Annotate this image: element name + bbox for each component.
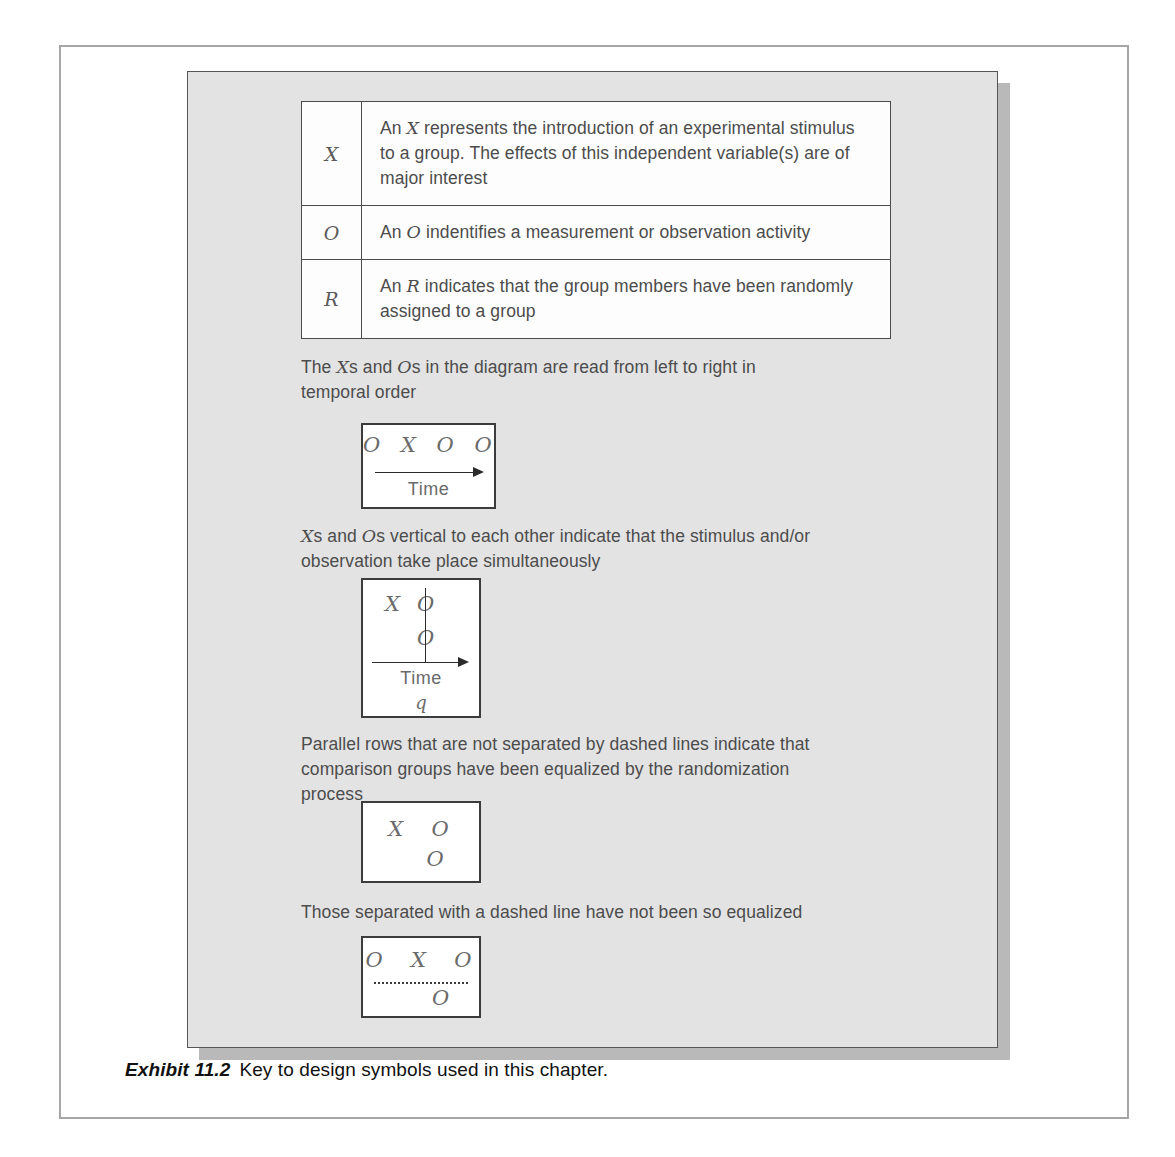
exhibit-caption: Exhibit 11.2Key to design symbols used i… xyxy=(125,1059,608,1081)
time-arrow-head-icon xyxy=(473,467,484,477)
exhibit-frame: X An X represents the introduction of an… xyxy=(59,45,1129,1119)
diagram2-time-label: Time xyxy=(363,668,479,689)
note1-lead: The xyxy=(301,357,336,377)
symbol-description-o: An O indentifies a measurement or observ… xyxy=(362,206,891,260)
diagram-box-equalized: X O O xyxy=(361,801,481,883)
time-arrow-line xyxy=(375,472,475,473)
desc-rest-x: represents the introduction of an experi… xyxy=(380,118,855,188)
inline-symbol-o: O xyxy=(407,222,421,242)
desc-lead-r: An xyxy=(380,276,407,296)
diagram4-row2: O xyxy=(363,986,479,1010)
symbol-cell-x: X xyxy=(302,102,362,206)
figure-panel: X An X represents the introduction of an… xyxy=(187,71,998,1048)
time-arrow-head-icon xyxy=(458,657,469,667)
note1-mid: s and xyxy=(349,357,397,377)
desc-lead-o: An xyxy=(380,222,407,242)
note2-rest: s vertical to each other indicate that t… xyxy=(301,526,810,571)
inline-symbol-r: R xyxy=(407,276,420,296)
time-arrow-line xyxy=(372,662,460,663)
symbol-description-r: An R indicates that the group members ha… xyxy=(362,260,891,339)
exhibit-page: X An X represents the introduction of an… xyxy=(0,0,1175,1157)
diagram-box-temporal: O X O O Time xyxy=(361,423,496,509)
diagram3-row2: O xyxy=(363,847,479,871)
table-row: X An X represents the introduction of an… xyxy=(302,102,891,206)
diagram-box-not-equalized: O X O O xyxy=(361,936,481,1018)
diagram2-q-label: q xyxy=(363,692,479,713)
note-not-equalized: Those separated with a dashed line have … xyxy=(301,900,861,925)
diagram1-symbols: O X O O xyxy=(363,433,494,457)
simultaneity-vertical-line xyxy=(425,588,426,662)
dashed-separator-line xyxy=(374,982,468,984)
diagram-box-simultaneous: X O O Time q xyxy=(361,578,481,718)
symbol-cell-r: R xyxy=(302,260,362,339)
note-simultaneous: Xs and Os vertical to each other indicat… xyxy=(301,524,891,574)
note1-symbol-o: O xyxy=(397,357,411,377)
desc-rest-r: indicates that the group members have be… xyxy=(380,276,853,321)
note2-symbol-o: O xyxy=(362,526,376,546)
note-temporal-order: The Xs and Os in the diagram are read fr… xyxy=(301,355,801,405)
note2-symbol-x: X xyxy=(301,526,314,546)
diagram4-row1: O X O xyxy=(363,948,479,972)
exhibit-caption-label: Exhibit 11.2 xyxy=(125,1059,230,1080)
table-row: R An R indicates that the group members … xyxy=(302,260,891,339)
note2-mid: s and xyxy=(314,526,362,546)
diagram2-row1-x: X xyxy=(385,592,400,616)
symbol-key-table: X An X represents the introduction of an… xyxy=(301,101,891,339)
desc-lead-x: An xyxy=(380,118,407,138)
diagram3-row1: X O xyxy=(363,817,479,841)
diagram1-time-label: Time xyxy=(363,479,494,500)
table-row: O An O indentifies a measurement or obse… xyxy=(302,206,891,260)
symbol-cell-o: O xyxy=(302,206,362,260)
note1-symbol-x: X xyxy=(336,357,349,377)
desc-rest-o: indentifies a measurement or observation… xyxy=(421,222,810,242)
note-randomization: Parallel rows that are not separated by … xyxy=(301,732,831,807)
exhibit-caption-text: Key to design symbols used in this chapt… xyxy=(239,1059,608,1080)
inline-symbol-x: X xyxy=(407,118,420,138)
symbol-description-x: An X represents the introduction of an e… xyxy=(362,102,891,206)
